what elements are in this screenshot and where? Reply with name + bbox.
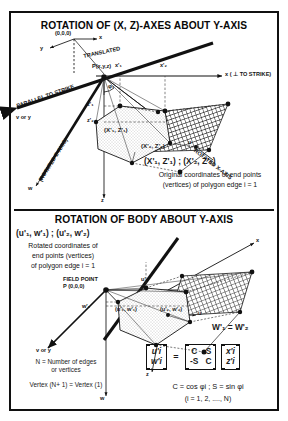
matrix-r2c1: -S [190, 356, 198, 366]
matrix-col2: S C [202, 346, 215, 367]
w-equal-note: W'₁ = W'₂ [212, 322, 249, 332]
axis-z-label-bottom: z [146, 372, 149, 378]
matrix-equation: u'i w'i = C -S S C x'i z'i [146, 344, 240, 370]
bottom-caption-line1: (u'₁, w'₁) ; (u'₂, w'₂) [16, 228, 90, 238]
lhs-row2: w'i [151, 356, 162, 366]
matrix-r1c1: C [191, 346, 197, 356]
axis-x-label-bottom: x [256, 238, 259, 244]
figure-root: ROTATION OF (X, Z)-AXES ABOUT Y-AXIS [0, 0, 288, 421]
wp1-axis-label: w'₁ [82, 304, 90, 310]
equation-range: (i = 1, 2, ...., N) [134, 394, 282, 403]
field-point-coords-label: P (0,0,0) [63, 284, 84, 290]
bottom-caption-line3: end points (vertices) [8, 251, 118, 260]
matrix-r2c2: C [205, 356, 211, 366]
rhs-column: x'i z'i [222, 346, 238, 367]
vertex-1-label-bottom: (u'₁, w'₁) [115, 306, 137, 312]
matrix-r1c2: S [206, 346, 212, 356]
rotation-matrix: C -S S C [185, 344, 216, 370]
bottom-caption-line4: of polygon edge i = 1 [8, 261, 118, 270]
lhs-vector: u'i w'i [146, 344, 167, 370]
up1-axis-label: u'₁ [141, 277, 148, 283]
axis-u-label-bottom: u [198, 311, 201, 317]
rhs-row2: z'i [226, 356, 235, 366]
rhs-row1: x'i [226, 346, 235, 356]
rhs-vector: x'i z'i [221, 344, 240, 370]
field-point-title-label: FIELD POINT [63, 277, 98, 283]
equation-definition: C = cos φi ; S = sin φi [134, 382, 282, 392]
v-or-y-label-bottom: v or y [36, 348, 51, 354]
equals-sign: = [171, 352, 180, 362]
axis-w-label-bottom: w [100, 396, 104, 402]
vertex-2-label-bottom: (u'₂, w'₂) [160, 306, 182, 312]
note-line2: or vertices [14, 366, 118, 374]
lhs-column: u'i w'i [148, 346, 166, 367]
bottom-caption-line2: Rotated coordinates of [8, 241, 118, 250]
lhs-row1: u'i [152, 346, 161, 356]
matrix-col1: C -S [187, 346, 202, 367]
note-line3: Vertex (N+ 1) = Vertex (1) [10, 381, 122, 389]
